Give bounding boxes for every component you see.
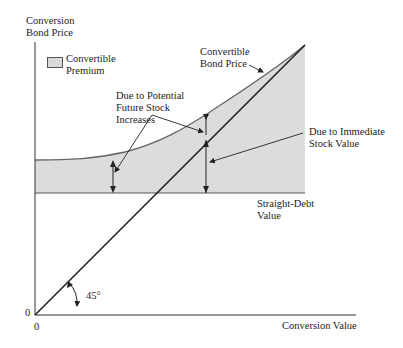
- legend-swatch: [47, 57, 63, 68]
- straight-debt-annotation: Straight-Debt Value: [257, 198, 314, 222]
- origin-x-label: 0: [34, 321, 39, 333]
- angle-arc: [69, 283, 77, 306]
- bond-price-leader: [249, 65, 263, 72]
- y-axis-label: Conversion Bond Price: [26, 15, 74, 39]
- angle-label: 45°: [86, 290, 101, 302]
- immediate-stock-annotation: Due to Immediate Stock Value: [309, 126, 385, 150]
- convertible-bond-diagram: Conversion Bond Price Convertible Premiu…: [0, 0, 403, 348]
- x-axis-label: Conversion Value: [282, 320, 357, 332]
- legend-label: Convertible Premium: [66, 53, 116, 77]
- future-stock-annotation: Due to Potential Future Stock Increases: [116, 90, 184, 126]
- origin-y-label: 0: [25, 307, 30, 319]
- bond-price-annotation: Convertible Bond Price: [200, 46, 250, 70]
